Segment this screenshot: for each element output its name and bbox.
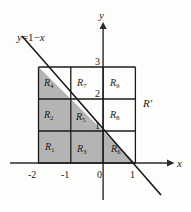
outer-region-label: R′: [143, 98, 152, 109]
region-sub-R8: 8: [116, 114, 120, 122]
y-tick-2: 2: [95, 89, 100, 99]
region-label-R2: R2: [44, 110, 54, 120]
y-tick-1: 1: [95, 121, 100, 131]
region-sub-R2: 2: [50, 114, 54, 122]
region-label-R8: R8: [110, 110, 120, 120]
line-equation-label: y=1−x: [17, 32, 45, 43]
y-axis-label: y: [99, 10, 104, 21]
region-sub-R9: 9: [116, 82, 120, 90]
region-label-R6: R6: [111, 144, 121, 154]
x-tick--1: -1: [61, 170, 69, 180]
x-tick-1: 1: [130, 170, 135, 180]
y-tick-3: 3: [95, 57, 100, 67]
region-label-R1: R1: [45, 142, 55, 152]
line-equation-x: x: [40, 31, 45, 43]
region-label-R3: R3: [77, 144, 87, 154]
x-tick-0: 0: [97, 170, 102, 180]
outer-region-base: R: [143, 97, 150, 109]
region-label-R4: R4: [44, 78, 54, 88]
region-sub-R6: 6: [117, 148, 121, 156]
x-axis-label: x: [177, 158, 182, 169]
region-label-R7: R7: [77, 78, 87, 88]
region-sub-R1: 1: [51, 146, 55, 154]
x-tick--2: -2: [28, 170, 36, 180]
region-fill-R3: [71, 131, 103, 163]
figure-canvas: y=1−x y x -2 -1 0 1 3 2 1 R4 R7 R9 R2 R5…: [0, 0, 191, 212]
region-sub-R3: 3: [83, 148, 87, 156]
outer-region-prime: ′: [150, 97, 152, 109]
region-sub-R4: 4: [50, 82, 54, 90]
y-axis-arrow-icon: [100, 22, 107, 29]
region-sub-R7: 7: [83, 82, 87, 90]
region-sub-R5: 5: [82, 116, 86, 124]
x-axis-arrow-icon: [167, 159, 175, 166]
region-label-R5: R5: [76, 112, 86, 122]
region-label-R9: R9: [110, 78, 120, 88]
